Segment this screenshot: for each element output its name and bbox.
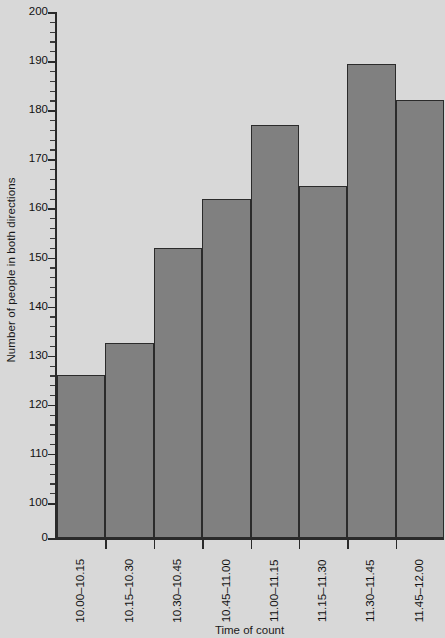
bar (251, 125, 299, 538)
y-axis-minor-tick (50, 238, 55, 239)
y-axis-minor-tick (50, 41, 55, 42)
x-axis-tick-label: 10.00–10.15 (57, 549, 105, 627)
y-axis-minor-tick (50, 71, 55, 72)
y-axis-tick-label: 190 (20, 55, 48, 67)
x-axis-tick-label-text: 11.15–11.30 (317, 560, 329, 622)
x-axis-tick-label: 11.00–11.15 (251, 549, 299, 627)
x-axis-tick-label: 10.15–10.30 (105, 549, 153, 627)
y-axis-tick-label: 200 (20, 6, 48, 18)
y-axis-minor-tick (50, 140, 55, 141)
y-axis-minor-tick (50, 120, 55, 121)
y-axis-minor-tick (50, 179, 55, 180)
y-axis-minor-tick (50, 130, 55, 131)
y-axis-minor-tick (50, 32, 55, 33)
x-axis-tick-label-text: 11.45–12.00 (414, 559, 426, 622)
y-axis-baseline-tick (48, 538, 56, 540)
x-axis-tick-label-text: 10.15–10.30 (124, 559, 136, 623)
y-axis-minor-tick (50, 395, 55, 396)
bar (154, 248, 202, 538)
plot-area (57, 12, 444, 538)
y-axis-minor-tick (50, 149, 55, 150)
x-axis-tick-label: 10.45–11.00 (202, 549, 250, 627)
y-axis-minor-tick (50, 483, 55, 484)
x-axis-title: Time of count (55, 624, 444, 636)
y-axis-minor-tick (50, 248, 55, 249)
y-axis-major-tick (48, 208, 56, 210)
y-axis-minor-tick (50, 100, 55, 101)
x-axis-tick (251, 540, 253, 549)
y-axis-minor-tick (50, 424, 55, 425)
y-axis-minor-tick (50, 81, 55, 82)
y-axis-minor-tick (50, 297, 55, 298)
y-axis-tick-label: 110 (20, 448, 48, 460)
y-axis-tick-label: 150 (20, 252, 48, 264)
x-axis-tick-label-text: 10.45–11.00 (221, 559, 233, 622)
y-axis-major-tick (48, 61, 56, 63)
y-axis-minor-tick (50, 91, 55, 92)
x-axis-tick (105, 540, 107, 549)
y-axis-major-tick (48, 356, 56, 358)
bar (202, 199, 250, 538)
y-axis-minor-tick (50, 51, 55, 52)
y-axis-tick-labels: 1001101201301401501601701801902000 (16, 0, 48, 545)
x-axis-tick-label: 11.45–12.00 (396, 549, 444, 627)
bar (57, 375, 105, 538)
bar-chart: Number of people in both directions 1001… (0, 0, 445, 638)
x-axis-line (55, 538, 444, 540)
y-axis-minor-tick (50, 444, 55, 445)
y-axis-major-tick (48, 258, 56, 260)
y-axis-minor-tick (50, 316, 55, 317)
y-axis-tick-label: 100 (20, 497, 48, 509)
y-axis-minor-tick (50, 277, 55, 278)
x-axis-tick (154, 540, 156, 549)
bar (299, 186, 347, 538)
y-axis-tick-label: 120 (20, 399, 48, 411)
y-axis-minor-tick (50, 218, 55, 219)
bar (396, 100, 444, 538)
y-axis-minor-tick (50, 474, 55, 475)
x-axis-tick (202, 540, 204, 549)
bar (347, 64, 395, 538)
y-axis-minor-tick (50, 169, 55, 170)
y-axis-tick-label: 130 (20, 350, 48, 362)
bar (105, 343, 153, 538)
y-axis-minor-tick (50, 336, 55, 337)
x-axis-tick-label-text: 10.00–10.15 (75, 559, 87, 623)
y-axis-minor-tick (50, 415, 55, 416)
y-axis-minor-tick (50, 346, 55, 347)
y-axis-minor-tick (50, 464, 55, 465)
x-axis-tick (396, 540, 398, 549)
x-axis-tick-label-text: 11.00–11.15 (269, 560, 281, 622)
y-axis-minor-tick (50, 493, 55, 494)
y-axis-minor-tick (50, 228, 55, 229)
y-axis-minor-tick (50, 326, 55, 327)
x-axis-tick-label-text: 10.30–10.45 (172, 559, 184, 623)
y-axis-tick-label: 170 (20, 154, 48, 166)
y-axis-major-tick (48, 110, 56, 112)
y-axis-major-tick (48, 159, 56, 161)
y-axis-major-tick (48, 405, 56, 407)
x-axis-tick-labels: 10.00–10.1510.15–10.3010.30–10.4510.45–1… (57, 549, 444, 627)
y-axis-minor-tick (50, 22, 55, 23)
x-axis-tick (299, 540, 301, 549)
y-axis-minor-tick (50, 366, 55, 367)
y-axis-minor-tick (50, 385, 55, 386)
x-axis-tick (347, 540, 349, 549)
y-axis-minor-tick (50, 189, 55, 190)
y-axis-major-tick (48, 12, 56, 14)
y-axis-minor-tick (50, 287, 55, 288)
x-axis-tick-label: 11.30–11.45 (347, 549, 395, 627)
x-axis-tick-label: 11.15–11.30 (299, 549, 347, 627)
x-axis-tick-label: 10.30–10.45 (154, 549, 202, 627)
x-axis-tick-label-text: 11.30–11.45 (366, 560, 378, 622)
y-axis-tick-label: 160 (20, 203, 48, 215)
y-axis-major-tick (48, 454, 56, 456)
y-axis-baseline-label: 0 (20, 532, 48, 544)
y-axis-minor-tick (50, 267, 55, 268)
y-axis-minor-tick (50, 375, 55, 376)
y-axis-tick-label: 140 (20, 301, 48, 313)
y-axis-minor-tick (50, 199, 55, 200)
y-axis-minor-tick (50, 434, 55, 435)
y-axis-major-tick (48, 503, 56, 505)
y-axis-tick-label: 180 (20, 104, 48, 116)
